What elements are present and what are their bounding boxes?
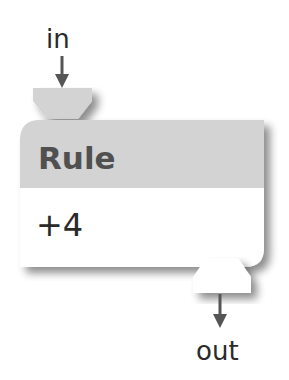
output-arrow-icon (213, 294, 227, 328)
input-label: in (46, 26, 70, 52)
output-label: out (196, 338, 239, 364)
input-port[interactable] (33, 88, 92, 119)
rule-diagram (0, 0, 289, 380)
node-value: +4 (36, 206, 83, 244)
input-arrow-icon (55, 56, 69, 88)
node-title: Rule (38, 140, 116, 176)
